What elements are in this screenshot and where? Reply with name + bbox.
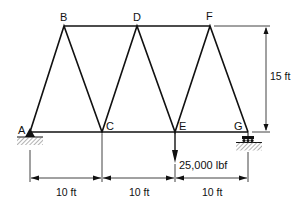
span-dimensions	[30, 134, 248, 182]
truss-diagram: A B C D E F G 25,000 lbf 15 ft 10 ft 10 …	[0, 0, 302, 207]
joint-label-d: D	[133, 12, 141, 23]
span-label-2: 10 ft	[129, 187, 149, 198]
joint-label-f: F	[206, 11, 213, 22]
roller-support-g	[236, 132, 262, 151]
joint-label-b: B	[60, 12, 67, 23]
load-label: 25,000 lbf	[179, 160, 227, 171]
truss-members	[30, 26, 248, 132]
joint-label-g: G	[234, 121, 243, 132]
truss-drawing	[0, 0, 302, 207]
span-label-3: 10 ft	[202, 187, 222, 198]
span-label-1: 10 ft	[56, 187, 76, 198]
joint-label-a: A	[18, 125, 25, 136]
joint-label-c: C	[106, 121, 114, 132]
joint-label-e: E	[179, 121, 186, 132]
web-members	[30, 26, 248, 132]
height-label: 15 ft	[270, 71, 290, 82]
load-arrow	[172, 132, 178, 163]
